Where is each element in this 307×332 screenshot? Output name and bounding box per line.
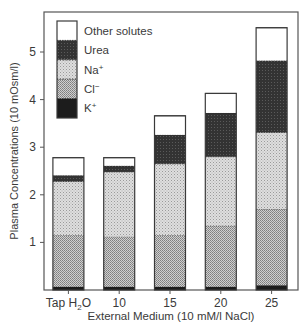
y-tick-label: 1 bbox=[29, 235, 36, 249]
bar-segment-na- bbox=[104, 172, 135, 237]
bar-segment-cl- bbox=[53, 235, 84, 286]
bar-segment-other-solutes bbox=[53, 158, 84, 176]
y-tick-label: 2 bbox=[29, 188, 36, 202]
legend-label: Na+ bbox=[84, 63, 104, 76]
bar-segment-other-solutes bbox=[155, 116, 186, 135]
bar-segment-na- bbox=[53, 181, 84, 235]
legend-label: Cl− bbox=[84, 82, 100, 95]
bar-segment-cl- bbox=[104, 237, 135, 287]
legend-item-other-solutes: Other solutes bbox=[57, 21, 153, 40]
stacked-bar-chart: 12345 Tap H2O10152025 Other solutesUreaN… bbox=[0, 0, 307, 332]
bar-segment-urea bbox=[205, 113, 236, 157]
legend-label: K+ bbox=[84, 101, 97, 114]
legend-swatch bbox=[57, 21, 77, 40]
x-tick-label: Tap H2O bbox=[46, 296, 91, 312]
x-axis-title: External Medium (10 mM/l NaCl) bbox=[88, 310, 255, 322]
x-tick-label: 20 bbox=[214, 296, 228, 310]
bar-segment-other-solutes bbox=[205, 93, 236, 113]
bar-segment-urea bbox=[53, 175, 84, 181]
legend-item-urea: Urea bbox=[57, 40, 110, 59]
x-tick-label: 10 bbox=[113, 296, 127, 310]
x-axis: Tap H2O10152025 bbox=[46, 290, 279, 312]
bar-20 bbox=[205, 93, 236, 290]
legend-label: Other solutes bbox=[84, 25, 153, 37]
bar-15 bbox=[155, 116, 186, 290]
bar-tap-h2o bbox=[53, 158, 84, 290]
bar-segment-other-solutes bbox=[104, 158, 135, 166]
y-axis-title: Plasma Concentrations (10 mOsm/l) bbox=[8, 62, 20, 239]
y-tick-label: 5 bbox=[29, 45, 36, 59]
bar-25 bbox=[256, 28, 287, 290]
legend-swatch bbox=[57, 79, 77, 98]
bar-10 bbox=[104, 158, 135, 290]
bar-segment-cl- bbox=[256, 209, 287, 285]
bar-segment-urea bbox=[256, 61, 287, 133]
x-tick-label: 15 bbox=[163, 296, 177, 310]
bar-segment-other-solutes bbox=[256, 28, 287, 61]
bar-segment-cl- bbox=[205, 226, 236, 287]
legend-swatch bbox=[57, 60, 77, 79]
legend-item-cl-: Cl− bbox=[57, 79, 100, 98]
x-tick-label: 25 bbox=[265, 296, 279, 310]
y-axis: 12345 bbox=[29, 45, 44, 249]
bar-segment-urea bbox=[155, 135, 186, 164]
bar-segment-urea bbox=[104, 166, 135, 172]
bar-segment-na- bbox=[155, 164, 186, 235]
legend-item-na-: Na+ bbox=[57, 60, 104, 79]
bar-segment-k- bbox=[256, 285, 287, 290]
legend-swatch bbox=[57, 40, 77, 59]
legend: Other solutesUreaNa+Cl−K+ bbox=[57, 21, 153, 118]
legend-swatch bbox=[57, 99, 77, 118]
bar-segment-na- bbox=[256, 132, 287, 209]
y-tick-label: 3 bbox=[29, 140, 36, 154]
bar-segment-na- bbox=[205, 157, 236, 226]
y-tick-label: 4 bbox=[29, 93, 36, 107]
legend-label: Urea bbox=[84, 44, 110, 56]
bar-segment-cl- bbox=[155, 235, 186, 286]
